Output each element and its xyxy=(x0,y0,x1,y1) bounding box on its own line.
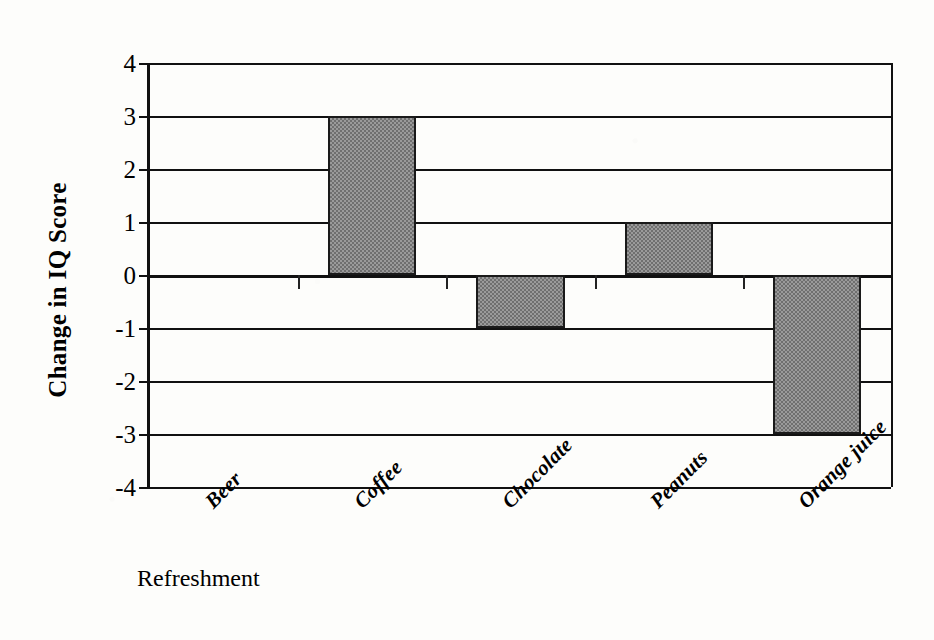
y-axis-tick xyxy=(139,222,150,224)
y-axis-tick xyxy=(139,434,150,436)
x-axis-title: Refreshment xyxy=(137,565,260,592)
y-axis-tick-label: 2 xyxy=(124,157,137,182)
x-axis-category-tick xyxy=(446,275,448,289)
bar-chocolate xyxy=(476,275,564,328)
gridline-3 xyxy=(150,116,891,118)
plot-area: 43210-1-2-3-4 xyxy=(147,63,893,487)
y-axis-title: Change in IQ Score xyxy=(44,140,72,440)
x-axis-category-tick xyxy=(298,275,300,289)
y-axis-tick-label: -1 xyxy=(115,316,136,341)
y-axis-tick-label: -2 xyxy=(115,369,136,394)
x-axis-category-tick xyxy=(743,275,745,289)
y-axis-tick xyxy=(139,381,150,383)
y-axis-tick-label: 4 xyxy=(124,51,137,76)
y-axis-tick-label: 3 xyxy=(124,104,137,129)
y-axis-tick xyxy=(139,63,150,65)
x-axis-category-tick xyxy=(595,275,597,289)
y-axis-tick-label: 0 xyxy=(124,263,137,288)
bar-peanuts xyxy=(625,222,713,275)
y-axis-tick xyxy=(139,275,150,277)
bar-coffee xyxy=(328,116,416,275)
y-axis-tick xyxy=(139,328,150,330)
bar-orange-juice xyxy=(773,275,861,434)
y-axis-tick xyxy=(139,169,150,171)
y-axis-tick-label: 1 xyxy=(124,210,137,235)
bar-chart: Change in IQ Score 43210-1-2-3-4 BeerCof… xyxy=(0,0,934,640)
y-axis-tick xyxy=(139,487,150,489)
gridline-2 xyxy=(150,169,891,171)
gridline--3 xyxy=(150,434,891,436)
gridline-4 xyxy=(150,63,891,65)
y-axis-tick-label: -3 xyxy=(115,422,136,447)
gridline-1 xyxy=(150,222,891,224)
y-axis-tick xyxy=(139,116,150,118)
y-axis-tick-label: -4 xyxy=(115,475,136,500)
